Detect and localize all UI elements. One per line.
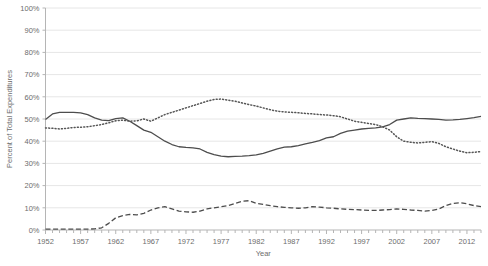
x-tick-label: 1977 [213,237,230,246]
line-chart: 0%10%20%30%40%50%60%70%80%90%100%1952195… [0,0,488,266]
y-tick-label: 50% [24,115,39,124]
chart-container: 0%10%20%30%40%50%60%70%80%90%100%1952195… [0,0,488,266]
x-tick-label: 1967 [143,237,160,246]
y-tick-label: 10% [24,204,39,213]
y-tick-label: 0% [29,226,40,235]
x-tick-label: 1972 [178,237,195,246]
y-tick-label: 90% [24,26,39,35]
x-tick-label: 2012 [459,237,476,246]
x-tick-label: 2002 [388,237,405,246]
y-axis-title: Percent of Total Expenditures [5,70,14,168]
x-tick-label: 1992 [318,237,335,246]
y-tick-label: 70% [24,70,39,79]
x-tick-label: 2007 [423,237,440,246]
y-tick-label: 20% [24,181,39,190]
x-axis-title: Year [256,249,272,258]
x-tick-label: 1952 [37,237,54,246]
x-tick-label: 1957 [72,237,89,246]
y-tick-label: 80% [24,48,39,57]
x-tick-label: 1962 [107,237,124,246]
y-tick-label: 100% [20,4,40,13]
y-tick-label: 40% [24,137,39,146]
y-tick-label: 60% [24,93,39,102]
x-tick-label: 1987 [283,237,300,246]
x-tick-label: 1997 [353,237,370,246]
x-tick-label: 1982 [248,237,265,246]
series-line-dashed-series [46,201,482,229]
y-tick-label: 30% [24,159,39,168]
series-line-dotted-series [46,99,482,153]
